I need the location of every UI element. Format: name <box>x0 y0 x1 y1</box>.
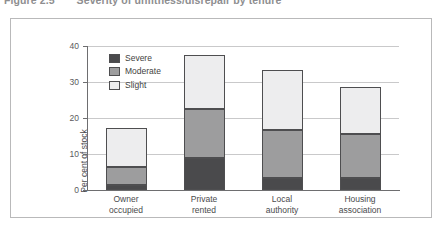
y-tick-label-10: 10 <box>53 150 79 159</box>
legend-label-slight: Slight <box>125 81 146 90</box>
legend-item-moderate: Moderate <box>109 66 187 78</box>
bar-segment-severe <box>262 178 303 190</box>
bar-segment-moderate <box>262 130 303 178</box>
bar-segment-moderate <box>184 109 225 158</box>
x-tick-label-private-rented: Privaterented <box>159 194 249 215</box>
x-tick-label-housing-association: Housingassociation <box>315 194 405 215</box>
bar-segment-severe <box>106 185 147 190</box>
legend-item-slight: Slight <box>109 79 187 91</box>
chart-legend: SevereModerateSlight <box>109 52 187 93</box>
bar-segment-severe <box>340 178 381 190</box>
bar-segment-slight <box>340 87 381 135</box>
y-tick-label-0: 0 <box>53 186 79 195</box>
bar-private-rented <box>184 55 225 190</box>
y-tick-label-20: 20 <box>53 114 79 123</box>
x-tick-label-local-authority: Localauthority <box>237 194 327 215</box>
bar-segment-moderate <box>340 134 381 178</box>
legend-swatch-moderate <box>109 67 120 76</box>
legend-label-moderate: Moderate <box>125 67 161 76</box>
legend-item-severe: Severe <box>109 52 187 64</box>
bar-local-authority <box>262 70 303 190</box>
x-axis-line <box>87 190 400 191</box>
y-axis-tick-labels: 010203040 <box>49 0 79 234</box>
y-tick-label-30: 30 <box>53 78 79 87</box>
bar-housing-association <box>340 87 381 190</box>
legend-label-severe: Severe <box>125 54 152 63</box>
legend-swatch-slight <box>109 81 120 90</box>
x-tick-label-owner-occupied: Owneroccupied <box>81 194 171 215</box>
y-tick-label-40: 40 <box>53 42 79 51</box>
bar-segment-slight <box>106 128 147 167</box>
bar-segment-severe <box>184 158 225 190</box>
bar-segment-slight <box>184 55 225 109</box>
figure-caption-text: Severity of unfitness/disrepair by tenur… <box>77 0 282 6</box>
legend-swatch-severe <box>109 54 120 63</box>
bar-owner-occupied <box>106 128 147 190</box>
bar-segment-moderate <box>106 167 147 184</box>
figure-caption-number: Figure 2.5 <box>4 0 55 6</box>
bar-segment-slight <box>262 70 303 130</box>
